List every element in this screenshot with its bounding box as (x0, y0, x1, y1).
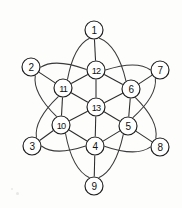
paper-speck (11, 188, 13, 190)
graph-node-13[interactable]: 13 (87, 98, 105, 116)
node-label: 2 (28, 62, 34, 73)
graph-arc-edge (41, 146, 85, 151)
graph-arc-edge (40, 63, 86, 69)
node-label: 12 (92, 66, 101, 76)
node-label: 1 (91, 25, 97, 36)
graph-node-12[interactable]: 12 (87, 61, 105, 79)
graph-edge (94, 39, 95, 60)
graph-edge (69, 111, 87, 120)
node-label: 11 (59, 84, 68, 94)
node-label: 8 (157, 142, 163, 153)
paper-speck (16, 192, 19, 195)
graph-node-10[interactable]: 10 (52, 116, 70, 134)
graph-node-5[interactable]: 5 (119, 117, 137, 135)
node-label: 13 (92, 103, 101, 113)
graph-canvas: 12345678910111213 (0, 0, 182, 208)
graph-node-4[interactable]: 4 (86, 137, 104, 155)
graph-edge (129, 98, 130, 116)
node-layer: 12345678910111213 (22, 21, 169, 195)
node-label: 6 (128, 84, 134, 95)
graph-edge (95, 116, 96, 136)
graph-node-2[interactable]: 2 (22, 58, 40, 76)
graph-edge (71, 75, 87, 84)
graph-node-9[interactable]: 9 (85, 177, 103, 195)
graph-edge (62, 97, 63, 115)
graph-node-8[interactable]: 8 (151, 138, 169, 156)
graph-edge (94, 155, 95, 176)
graph-edge (136, 131, 152, 142)
graph-edge (104, 112, 120, 121)
node-label: 5 (125, 121, 131, 132)
graph-edge (104, 93, 122, 102)
node-label: 9 (91, 181, 97, 192)
graph-arc-edge (104, 146, 150, 152)
graph-edge (103, 131, 120, 141)
node-label: 10 (57, 121, 66, 131)
graph-edge (71, 93, 88, 103)
node-label: 4 (92, 141, 98, 152)
graph-edge (104, 74, 122, 84)
graph-arc-edge (105, 65, 150, 70)
graph-node-6[interactable]: 6 (122, 80, 140, 98)
graph-figure: 12345678910111213 (0, 0, 182, 208)
graph-edge (40, 131, 54, 141)
graph-node-1[interactable]: 1 (85, 21, 103, 39)
graph-edge (39, 72, 55, 83)
graph-arc-edge (67, 38, 89, 79)
graph-edge (139, 75, 152, 84)
node-label: 3 (29, 141, 35, 152)
graph-edge (69, 130, 87, 141)
node-label: 7 (157, 65, 163, 76)
graph-node-7[interactable]: 7 (151, 61, 169, 79)
graph-node-3[interactable]: 3 (23, 137, 41, 155)
graph-node-11[interactable]: 11 (54, 79, 72, 97)
